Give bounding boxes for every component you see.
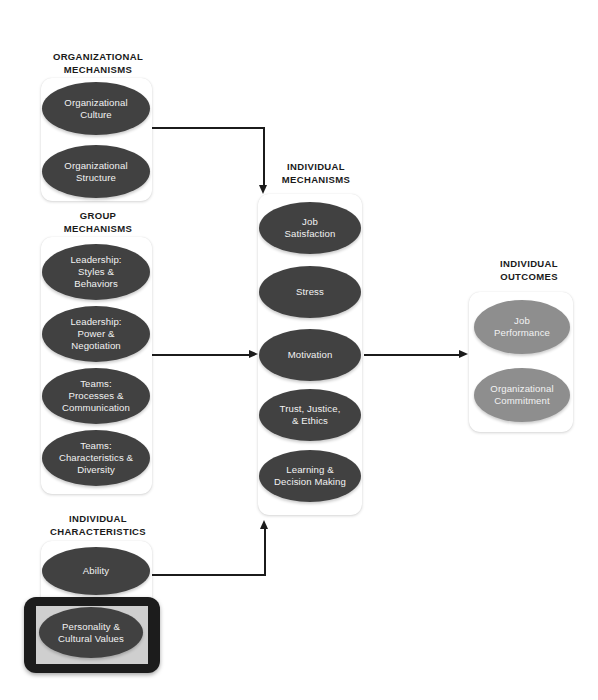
node-organizational-structure[interactable]: Organizational Structure (42, 145, 150, 198)
arrowhead-org-to-individual (259, 185, 267, 194)
node-leadership-styles-behaviors[interactable]: Leadership: Styles & Behaviors (42, 244, 150, 300)
node-leadership-power-negotiation[interactable]: Leadership: Power & Negotiation (42, 306, 150, 362)
connector-characteristics-to-individual-vertical (264, 528, 266, 575)
node-stress[interactable]: Stress (259, 266, 361, 318)
section-label-individual-outcomes: INDIVIDUAL OUTCOMES (474, 257, 584, 283)
node-teams-characteristics-diversity[interactable]: Teams: Characteristics & Diversity (42, 430, 150, 486)
connector-group-to-individual-horizontal (152, 354, 250, 356)
node-teams-processes-communication[interactable]: Teams: Processes & Communication (42, 368, 150, 424)
connector-individual-to-outcomes-horizontal (364, 354, 461, 356)
arrowhead-characteristics-to-individual (260, 520, 268, 529)
node-personality-cultural-values[interactable]: Personality & Cultural Values (39, 607, 143, 658)
node-learning-decision-making[interactable]: Learning & Decision Making (259, 450, 361, 502)
section-label-group-mechanisms: GROUP MECHANISMS (28, 209, 168, 235)
node-trust-justice-ethics[interactable]: Trust, Justice, & Ethics (259, 389, 361, 441)
connector-org-to-individual-horizontal (152, 127, 264, 129)
section-label-organizational-mechanisms: ORGANIZATIONAL MECHANISMS (28, 50, 168, 76)
section-label-individual-mechanisms: INDIVIDUAL MECHANISMS (257, 160, 375, 186)
section-label-individual-characteristics: INDIVIDUAL CHARACTERISTICS (20, 512, 176, 538)
node-organizational-commitment[interactable]: Organizational Commitment (474, 368, 570, 422)
integrative-model-diagram: ORGANIZATIONAL MECHANISMS Organizational… (0, 0, 598, 700)
node-job-satisfaction[interactable]: Job Satisfaction (259, 202, 361, 254)
arrowhead-group-to-individual (249, 350, 258, 358)
node-ability[interactable]: Ability (42, 547, 150, 595)
node-job-performance[interactable]: Job Performance (474, 300, 570, 354)
node-motivation[interactable]: Motivation (259, 329, 361, 381)
arrowhead-individual-to-outcomes (459, 350, 468, 358)
connector-characteristics-to-individual-horizontal (152, 574, 266, 576)
node-organizational-culture[interactable]: Organizational Culture (42, 82, 150, 135)
connector-org-to-individual-vertical (263, 127, 265, 187)
